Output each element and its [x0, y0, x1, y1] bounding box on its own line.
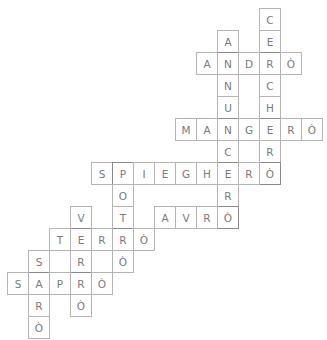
- crossword-cell: R: [28, 294, 50, 317]
- crossword-cell: D: [238, 52, 260, 75]
- crossword-cell: E: [259, 30, 281, 53]
- crossword-grid: CERCHERÒANNUNCERÒADÒMAGRÒSPIEGHROTRÒAVRV…: [0, 0, 327, 340]
- crossword-cell: N: [217, 118, 239, 141]
- crossword-cell: V: [175, 206, 197, 229]
- crossword-cell: Ò: [91, 272, 113, 295]
- crossword-cell: A: [28, 272, 50, 295]
- crossword-cell: Ò: [217, 206, 239, 229]
- crossword-cell: S: [91, 162, 113, 185]
- crossword-cell: M: [175, 118, 197, 141]
- crossword-cell: T: [49, 228, 71, 251]
- crossword-cell: R: [259, 140, 281, 163]
- crossword-cell: Ò: [133, 228, 155, 251]
- crossword-cell: P: [112, 162, 134, 185]
- crossword-cell: C: [217, 140, 239, 163]
- crossword-cell: G: [175, 162, 197, 185]
- crossword-cell: R: [70, 272, 92, 295]
- crossword-cell: H: [196, 162, 218, 185]
- crossword-cell: E: [217, 162, 239, 185]
- crossword-cell: V: [70, 206, 92, 229]
- crossword-cell: A: [196, 52, 218, 75]
- crossword-cell: R: [91, 228, 113, 251]
- crossword-cell: R: [259, 52, 281, 75]
- crossword-cell: R: [196, 206, 218, 229]
- crossword-cell: G: [238, 118, 260, 141]
- crossword-cell: Ò: [301, 118, 323, 141]
- crossword-cell: E: [154, 162, 176, 185]
- crossword-cell: Ò: [70, 294, 92, 317]
- crossword-cell: Ò: [112, 250, 134, 273]
- crossword-cell: R: [238, 162, 260, 185]
- crossword-cell: H: [259, 96, 281, 119]
- crossword-cell: E: [259, 118, 281, 141]
- crossword-cell: S: [28, 250, 50, 273]
- crossword-cell: Ò: [28, 316, 50, 339]
- crossword-cell: N: [217, 52, 239, 75]
- crossword-cell: E: [70, 228, 92, 251]
- crossword-cell: R: [70, 250, 92, 273]
- crossword-cell: I: [133, 162, 155, 185]
- crossword-cell: O: [112, 184, 134, 207]
- crossword-cell: T: [112, 206, 134, 229]
- crossword-cell: Ò: [280, 52, 302, 75]
- crossword-cell: R: [280, 118, 302, 141]
- crossword-cell: C: [259, 8, 281, 31]
- crossword-cell: Ò: [259, 162, 281, 185]
- crossword-cell: C: [259, 74, 281, 97]
- crossword-cell: R: [217, 184, 239, 207]
- crossword-cell: U: [217, 96, 239, 119]
- crossword-cell: A: [217, 30, 239, 53]
- crossword-cell: R: [112, 228, 134, 251]
- crossword-cell: P: [49, 272, 71, 295]
- crossword-cell: A: [154, 206, 176, 229]
- crossword-cell: A: [196, 118, 218, 141]
- crossword-cell: S: [7, 272, 29, 295]
- crossword-cell: N: [217, 74, 239, 97]
